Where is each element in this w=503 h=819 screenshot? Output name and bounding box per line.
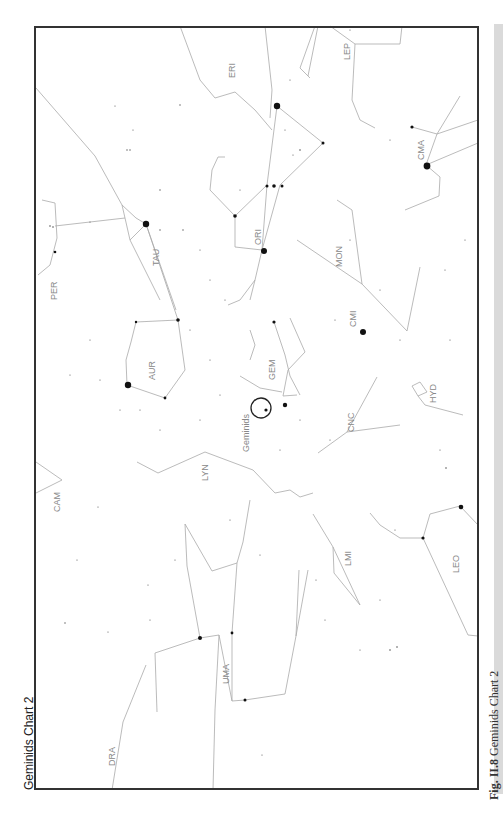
caption-text: Geminids Chart 2 [487, 671, 501, 756]
chart-border [34, 26, 479, 790]
chart-title: Geminids Chart 2 [22, 697, 36, 790]
caption-prefix: Fig. II.8 [487, 759, 501, 800]
figure-caption: Fig. II.8 Geminids Chart 2 [487, 671, 502, 800]
figure-page: ERI LEP CMA ORI TAU MON PER CMI AUR GEM … [0, 0, 503, 819]
